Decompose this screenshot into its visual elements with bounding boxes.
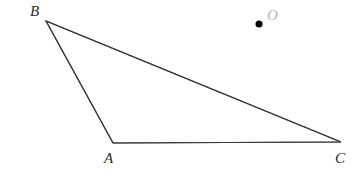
geometry-figure-svg bbox=[0, 0, 361, 181]
edge-BA bbox=[46, 21, 113, 143]
geometry-figure-canvas: B A C O bbox=[0, 0, 361, 181]
vertex-label-c: C bbox=[335, 151, 345, 166]
vertex-label-a: A bbox=[104, 151, 113, 166]
edge-AC bbox=[113, 142, 341, 143]
vertex-label-b: B bbox=[30, 4, 39, 19]
point-o-marker bbox=[256, 21, 263, 28]
point-label-o: O bbox=[267, 8, 278, 23]
edge-BC bbox=[46, 21, 341, 142]
